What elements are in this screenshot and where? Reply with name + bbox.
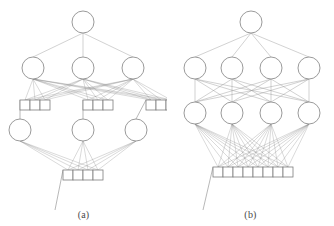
figure-root: (a) (b)	[0, 0, 334, 226]
flat-input-box	[273, 167, 283, 177]
hidden-to-input-edge	[258, 124, 309, 167]
hidden-to-input-edge	[268, 124, 309, 167]
lower-hidden-to-input-edge	[98, 141, 136, 170]
external-stem	[203, 167, 213, 210]
lower-hidden-to-input-edge	[20, 141, 98, 170]
hidden-to-input-edge	[33, 79, 98, 100]
panel-b-nodes	[184, 11, 320, 177]
upper-hidden-node	[298, 57, 320, 79]
panel-b: (b)	[167, 0, 334, 226]
panel-a-diagram	[0, 0, 167, 226]
flat-input-box	[233, 167, 243, 177]
panel-a-nodes	[9, 11, 167, 180]
panel-b-caption: (b)	[167, 209, 334, 220]
hidden-to-input-edge	[248, 124, 271, 167]
flat-input-box	[283, 167, 293, 177]
lower-hidden-node	[298, 102, 320, 124]
flat-input-box	[223, 167, 233, 177]
upper-hidden-node	[22, 57, 44, 79]
panel-a-edges	[20, 33, 167, 210]
panel-a-caption: (a)	[0, 209, 167, 220]
top-output-node	[72, 11, 94, 33]
upper-input-box	[40, 100, 50, 110]
panel-b-diagram	[167, 0, 334, 226]
hidden-to-input-edge	[238, 124, 271, 167]
flat-input-box	[253, 167, 263, 177]
hidden-to-input-edge	[108, 79, 133, 100]
lower-hidden-node	[260, 102, 282, 124]
hidden-to-input-edge	[232, 124, 258, 167]
lower-hidden-to-input-edge	[68, 141, 136, 170]
lower-hidden-node	[221, 102, 243, 124]
hidden-to-input-edge	[232, 124, 278, 167]
upper-input-box	[93, 100, 103, 110]
upper-hidden-node	[122, 57, 144, 79]
upper-hidden-node	[260, 57, 282, 79]
hidden-to-input-edge	[35, 79, 133, 100]
hidden-to-input-edge	[232, 124, 238, 167]
lower-input-box	[73, 170, 83, 180]
top-to-hidden-edge	[33, 33, 83, 57]
top-to-hidden-edge	[83, 33, 133, 57]
hidden-to-input-edge	[195, 124, 218, 167]
lower-hidden-to-input-edge	[78, 141, 136, 170]
lower-hidden-node	[125, 119, 147, 141]
top-to-hidden-edge	[251, 33, 271, 57]
hidden-to-input-edge	[195, 124, 228, 167]
upper-input-box	[83, 100, 93, 110]
hidden-to-input-edge	[271, 124, 278, 167]
lower-hidden-node	[184, 102, 206, 124]
hidden-to-input-edge	[98, 79, 133, 100]
upper-input-box	[156, 100, 166, 110]
panel-a: (a)	[0, 0, 167, 226]
top-to-hidden-edge	[232, 33, 251, 57]
upper-hidden-node	[72, 57, 94, 79]
lower-input-box	[63, 170, 73, 180]
hidden-to-input-edge	[83, 79, 108, 100]
panel-b-edges	[195, 33, 309, 210]
lower-hidden-to-input-edge	[20, 141, 78, 170]
lower-hidden-to-input-edge	[78, 141, 83, 170]
upper-hidden-node	[221, 57, 243, 79]
hidden-to-input-edge	[25, 79, 33, 100]
upper-input-box	[103, 100, 113, 110]
lower-hidden-to-input-edge	[83, 141, 98, 170]
top-output-node	[240, 11, 262, 33]
upper-input-box	[30, 100, 40, 110]
hidden-to-input-edge	[248, 124, 309, 167]
lower-hidden-to-input-edge	[20, 141, 68, 170]
lower-input-box	[93, 170, 103, 180]
top-to-hidden-edge	[251, 33, 309, 57]
hidden-to-input-edge	[232, 124, 268, 167]
lower-input-box	[83, 170, 93, 180]
upper-input-box	[146, 100, 156, 110]
upper-hidden-node	[184, 57, 206, 79]
lower-hidden-to-input-edge	[83, 141, 88, 170]
hidden-to-input-edge	[218, 124, 271, 167]
external-stem	[55, 170, 63, 210]
group-stem	[136, 100, 146, 119]
top-to-hidden-edge	[195, 33, 251, 57]
hidden-to-input-edge	[45, 79, 133, 100]
lower-hidden-node	[72, 119, 94, 141]
lower-hidden-to-input-edge	[88, 141, 136, 170]
lower-hidden-to-input-edge	[68, 141, 83, 170]
flat-input-box	[213, 167, 223, 177]
flat-input-box	[263, 167, 273, 177]
upper-input-box	[20, 100, 30, 110]
hidden-to-input-edge	[133, 79, 161, 100]
lower-hidden-node	[9, 119, 31, 141]
flat-input-box	[243, 167, 253, 177]
hidden-to-input-edge	[278, 124, 309, 167]
hidden-to-input-edge	[35, 79, 83, 100]
